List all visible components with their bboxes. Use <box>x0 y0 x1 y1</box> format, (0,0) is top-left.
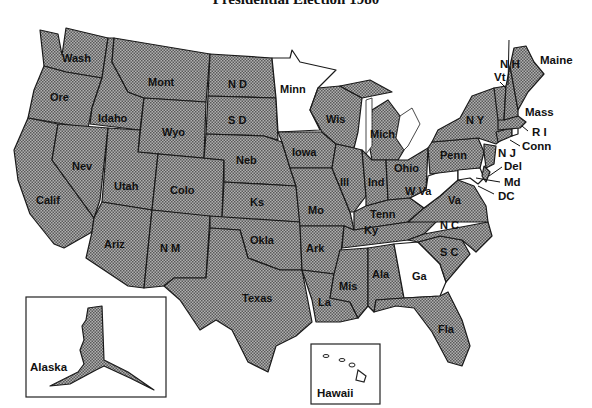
label-tenn: Tenn <box>370 208 396 220</box>
label-va: Va <box>448 194 462 206</box>
label-nh: N H <box>500 58 520 70</box>
label-del: Del <box>504 160 522 172</box>
lake-michigan <box>366 98 372 154</box>
label-utah: Utah <box>114 180 139 192</box>
lake-huron <box>396 108 420 150</box>
label-ga: Ga <box>412 270 428 282</box>
label-minn: Minn <box>280 83 306 95</box>
label-conn: Conn <box>522 140 551 152</box>
label-alaska: Alaska <box>30 361 68 373</box>
us-election-map: Wash Ore Calif Idaho Nev Mont Wyo Utah C… <box>0 0 592 408</box>
label-texas: Texas <box>242 292 272 304</box>
label-nd: N D <box>228 78 247 90</box>
label-mis: Mis <box>339 280 357 292</box>
label-mich: Mich <box>370 128 395 140</box>
label-neb: Neb <box>236 154 257 166</box>
label-nc: N C <box>440 219 459 231</box>
label-mo: Mo <box>308 204 324 216</box>
state-nj[interactable] <box>484 144 496 168</box>
state-nd[interactable] <box>208 54 276 98</box>
label-iowa: Iowa <box>292 146 317 158</box>
label-ariz: Ariz <box>104 238 125 250</box>
label-sc: S C <box>440 246 458 258</box>
label-wis: Wis <box>326 113 345 125</box>
label-ny: N Y <box>466 114 485 126</box>
conn-leader <box>510 140 520 146</box>
label-mont: Mont <box>148 76 175 88</box>
label-idaho: Idaho <box>98 112 128 124</box>
ri-leader <box>522 126 528 131</box>
label-ks: Ks <box>250 196 264 208</box>
label-dc: DC <box>498 190 515 202</box>
label-ind: Ind <box>368 176 385 188</box>
dc-leader <box>478 186 494 194</box>
label-nev: Nev <box>72 160 93 172</box>
label-vt: Vt <box>494 71 506 83</box>
label-calif: Calif <box>36 194 60 206</box>
label-ky: Ky <box>364 224 379 236</box>
label-fla: Fla <box>438 323 455 335</box>
label-wva: W Va <box>405 185 432 197</box>
label-wash: Wash <box>62 52 91 64</box>
label-okla: Okla <box>250 234 275 246</box>
label-ri: R I <box>532 126 547 138</box>
label-maine: Maine <box>540 54 573 66</box>
label-nm: N M <box>160 242 180 254</box>
label-ohio: Ohio <box>394 162 419 174</box>
label-wyo: Wyo <box>162 126 185 138</box>
label-hawaii: Hawaii <box>317 387 353 399</box>
label-md: Md <box>504 176 521 188</box>
label-penn: Penn <box>440 149 467 161</box>
label-ill: Ill <box>340 176 349 188</box>
label-nj: N J <box>498 147 516 159</box>
state-fla[interactable] <box>374 292 470 366</box>
label-la: La <box>318 296 332 308</box>
label-ark: Ark <box>306 242 325 254</box>
label-mass: Mass <box>525 106 554 118</box>
del-leader <box>489 167 502 176</box>
label-sd: S D <box>228 114 246 126</box>
label-colo: Colo <box>170 184 195 196</box>
label-ore: Ore <box>50 91 69 103</box>
label-ala: Ala <box>372 268 390 280</box>
